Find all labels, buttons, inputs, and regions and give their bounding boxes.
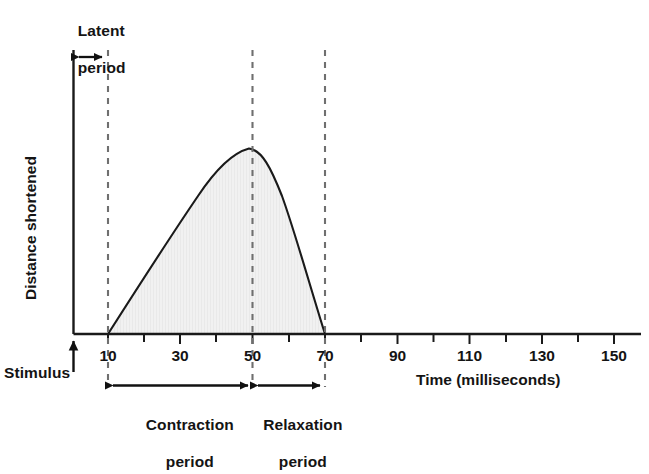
x-tick-label-130: 130 [529,347,555,365]
x-tick-label-70: 70 [316,347,333,365]
contraction-period-label: Contraction period [128,398,234,474]
y-axis-title: Distance shortened [22,156,40,300]
x-tick-label-110: 110 [457,347,482,365]
contraction-period-label-line1: Contraction [146,416,234,433]
relaxation-period-label: Relaxation period [245,398,342,474]
x-axis-ticks [108,334,614,344]
x-axis-title: Time (milliseconds) [416,371,560,389]
relaxation-period-label-line1: Relaxation [263,416,342,433]
x-tick-label-150: 150 [601,347,627,365]
relaxation-period-label-line2: period [279,453,327,470]
x-tick-label-30: 30 [171,347,188,365]
x-tick-label-10: 10 [99,347,116,365]
twitch-area-fill [108,149,325,335]
latent-period-label: Latent period [60,4,126,95]
contraction-period-label-line2: period [166,453,214,470]
x-tick-label-90: 90 [389,347,406,365]
x-tick-label-50: 50 [244,347,261,365]
latent-period-label-line1: Latent [78,22,125,39]
stimulus-label: Stimulus [4,364,70,382]
latent-period-label-line2: period [78,59,126,76]
